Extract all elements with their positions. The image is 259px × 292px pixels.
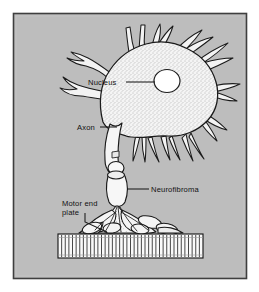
- label-motor-end-plate-line1: Motor end: [62, 199, 98, 208]
- neurofibroma-joint: [108, 171, 125, 179]
- axon-node: [112, 151, 119, 158]
- label-nucleus-text: Nucleus: [88, 78, 117, 87]
- nucleus: [154, 70, 180, 93]
- neuron-diagram: Nucleus Axon Neurofibroma Motor end plat…: [0, 0, 259, 292]
- label-neurofibroma-text: Neurofibroma: [151, 185, 199, 194]
- muscle-fiber: [58, 234, 203, 258]
- label-axon-text: Axon: [77, 123, 95, 132]
- neurofibroma: [107, 162, 128, 207]
- label-motor-end-plate-line2: plate: [62, 208, 79, 217]
- figure-root: Nucleus Axon Neurofibroma Motor end plat…: [0, 0, 259, 292]
